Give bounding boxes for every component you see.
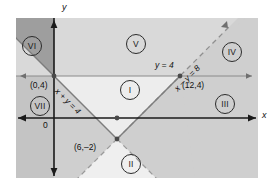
region-label-VI: VI (22, 36, 42, 56)
point-label-6-neg2: (6,–2) (74, 142, 96, 152)
region-label-I: I (120, 80, 140, 100)
diagram-figure: VI VII V IV III I II (0,4) (12,4) (6,–2)… (0, 0, 274, 190)
origin-label: 0 (43, 120, 48, 130)
coordinate-plane: VI VII V IV III I II (0,4) (12,4) (6,–2)… (16, 18, 258, 178)
region-label-IV: IV (222, 42, 242, 62)
y-axis-label: y (62, 2, 67, 12)
region-label-VII: VII (30, 96, 50, 116)
point-x-intercept-marker (115, 116, 120, 121)
point-0-4-marker (52, 74, 57, 79)
region-label-III: III (215, 94, 235, 114)
point-label-0-4: (0,4) (30, 80, 47, 90)
region-label-V: V (126, 34, 146, 54)
point-6-neg2-marker (115, 137, 120, 142)
region-VII-fill (16, 76, 54, 178)
region-label-II: II (121, 154, 141, 174)
x-axis-label: x (262, 110, 267, 120)
equation-label-y-equals-4: y = 4 (155, 60, 174, 70)
